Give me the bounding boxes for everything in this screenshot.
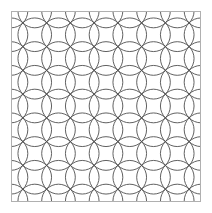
figure-canvas: Interlocking Circles Pattern Square-latt…: [0, 0, 212, 213]
pattern-frame-fill: [11, 11, 201, 202]
circle-pattern-figure: Interlocking Circles Pattern Square-latt…: [0, 0, 212, 213]
